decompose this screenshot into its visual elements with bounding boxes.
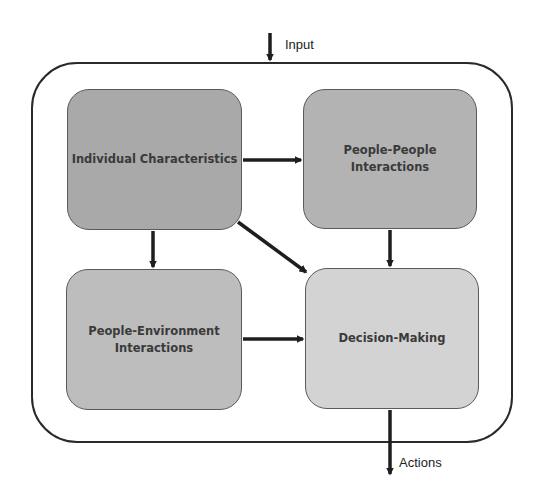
node-individual-characteristics: Individual Characteristics	[67, 89, 242, 230]
node-label: People-People Interactions	[344, 142, 437, 175]
node-label: Individual Characteristics	[72, 151, 238, 168]
node-people-environment-interactions: People-Environment Interactions	[66, 269, 242, 410]
node-decision-making: Decision-Making	[305, 268, 479, 409]
node-label: People-Environment Interactions	[88, 323, 220, 356]
node-people-people-interactions: People-People Interactions	[303, 89, 477, 229]
input-label: Input	[285, 37, 314, 52]
node-label: Decision-Making	[339, 330, 446, 347]
actions-label: Actions	[399, 455, 442, 470]
diagram-canvas: Individual Characteristics People-People…	[0, 0, 540, 501]
